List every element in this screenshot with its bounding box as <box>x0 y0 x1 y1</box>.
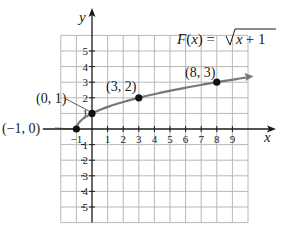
x-tick-label: 1 <box>105 133 111 145</box>
svg-text:F(x) =: F(x) = <box>176 31 215 48</box>
point-label: (−1, 0) <box>2 121 41 137</box>
data-point <box>73 125 80 132</box>
point-label: (3, 2) <box>106 79 137 95</box>
y-tick-label: 3 <box>83 76 89 88</box>
x-tick-label: 8 <box>214 133 220 145</box>
function-graph: −11234567895432112345 (−1, 0)(0, 1)(3, 2… <box>0 0 285 232</box>
svg-text:x+ 1: x+ 1 <box>235 31 265 47</box>
function-formula: F(x) = x+ 1 <box>176 29 276 48</box>
data-point <box>88 110 95 117</box>
x-tick-label: 3 <box>136 133 142 145</box>
x-tick-label: 7 <box>198 133 204 145</box>
y-tick-label: 5 <box>83 45 89 57</box>
data-point <box>135 94 142 101</box>
x-tick-label: 2 <box>120 133 126 145</box>
y-tick-label: 4 <box>83 185 89 197</box>
y-tick-label: 2 <box>83 154 89 166</box>
y-tick-label: 3 <box>83 170 89 182</box>
sqrt-curve <box>76 78 246 130</box>
point-label: (8, 3) <box>185 65 216 81</box>
formula-radicand-var: x <box>235 31 243 47</box>
formula-eq: = <box>207 31 215 47</box>
y-tick-label: 5 <box>83 201 89 213</box>
formula-radicand-rest: + 1 <box>246 31 266 47</box>
data-points <box>73 79 221 133</box>
y-tick-label: 2 <box>83 92 89 104</box>
x-tick-label: 4 <box>152 133 158 145</box>
x-tick-label: 9 <box>230 133 236 145</box>
y-tick-label: 4 <box>83 61 89 73</box>
x-tick-label: −1 <box>71 133 83 145</box>
x-axis-label: x <box>263 129 271 145</box>
labels: (−1, 0)(0, 1)(3, 2)(8, 3) <box>2 65 216 137</box>
x-tick-label: 6 <box>183 133 189 145</box>
function-curve <box>76 73 253 129</box>
x-tick-label: 5 <box>167 133 173 145</box>
y-tick-label: 1 <box>83 139 89 151</box>
point-label: (0, 1) <box>36 91 67 107</box>
y-axis-label: y <box>77 9 86 25</box>
